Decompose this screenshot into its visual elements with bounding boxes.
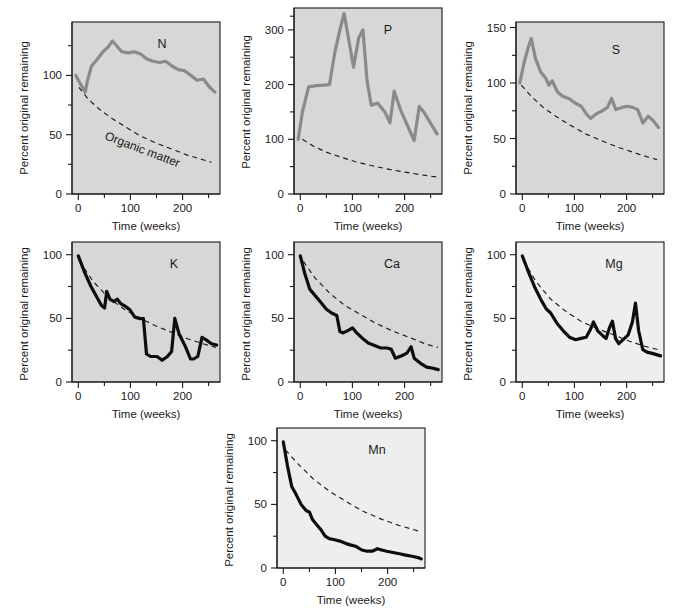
panel-label-n: N xyxy=(157,37,166,51)
x-ticks-ca xyxy=(300,382,430,388)
y-tick-label: 50 xyxy=(254,498,267,510)
x-axis-title: Time (weeks) xyxy=(112,408,181,420)
panel-label-s: S xyxy=(612,43,620,57)
y-axis-title: Percent original remaining xyxy=(18,41,30,175)
y-ticks-mg xyxy=(510,255,516,382)
chart-svg-mn: 0 50 100 0 100 200 Time (weeks) Percent … xyxy=(219,412,431,610)
x-axis-title: Time (weeks) xyxy=(556,408,625,420)
chart-panel-mn: 0 50 100 0 100 200 Time (weeks) Percent … xyxy=(219,412,431,610)
x-tick-label: 100 xyxy=(326,576,345,588)
x-tick-label: 200 xyxy=(395,202,414,214)
y-ticks-k xyxy=(66,255,72,382)
panel-label-p: P xyxy=(384,23,392,37)
y-axis-title: Percent original remaining xyxy=(462,41,474,175)
x-tick-label: 200 xyxy=(617,390,636,402)
x-ticks-mn xyxy=(283,568,413,574)
plot-area-k xyxy=(72,242,220,382)
panel-label-mn: Mn xyxy=(368,443,385,457)
y-axis-title: Percent original remaining xyxy=(240,35,252,169)
y-tick-label: 0 xyxy=(500,188,506,200)
chart-panel-k: 0 50 100 0 100 200 Time (weeks) Percent … xyxy=(14,226,226,426)
y-axis-title: Percent original remaining xyxy=(223,433,235,567)
y-axis-title: Percent original remaining xyxy=(240,247,252,381)
y-axis-title: Percent original remaining xyxy=(462,247,474,381)
y-tick-label: 0 xyxy=(261,562,267,574)
chart-svg-mg: 0 50 100 0 100 200 Time (weeks) Percent … xyxy=(458,226,670,426)
y-tick-label: 150 xyxy=(487,22,506,34)
x-tick-label: 0 xyxy=(297,390,303,402)
panel-label-mg: Mg xyxy=(605,257,622,271)
x-tick-label: 200 xyxy=(395,390,414,402)
chart-panel-p: 0 100 200 300 0 100 200 Time (weeks) Per… xyxy=(236,0,448,238)
x-tick-label: 200 xyxy=(378,576,397,588)
x-tick-label: 0 xyxy=(519,390,525,402)
x-tick-label: 100 xyxy=(565,390,584,402)
y-tick-label: 100 xyxy=(43,249,62,261)
y-tick-label: 50 xyxy=(49,129,62,141)
x-tick-label: 0 xyxy=(297,202,303,214)
y-tick-label: 300 xyxy=(265,24,284,36)
panel-label-ca: Ca xyxy=(384,257,400,271)
y-tick-label: 100 xyxy=(265,249,284,261)
x-ticks-s xyxy=(522,194,652,200)
y-ticks-n xyxy=(66,46,72,194)
x-tick-label: 100 xyxy=(343,202,362,214)
plot-area-p xyxy=(294,8,442,194)
x-tick-label: 200 xyxy=(617,202,636,214)
y-ticks-s xyxy=(510,28,516,195)
chart-svg-ca: 0 50 100 0 100 200 Time (weeks) Percent … xyxy=(236,226,448,426)
chart-svg-s: 0 50 100 150 0 100 200 Time (weeks) Perc… xyxy=(458,6,670,238)
chart-svg-k: 0 50 100 0 100 200 Time (weeks) Percent … xyxy=(14,226,226,426)
chart-panel-s: 0 50 100 150 0 100 200 Time (weeks) Perc… xyxy=(458,6,670,238)
x-tick-label: 200 xyxy=(173,202,192,214)
x-tick-label: 0 xyxy=(75,202,81,214)
x-tick-label: 0 xyxy=(280,576,286,588)
x-tick-label: 200 xyxy=(173,390,192,402)
x-tick-label: 100 xyxy=(121,390,140,402)
plot-area-mg xyxy=(516,242,664,382)
x-ticks-n xyxy=(78,194,208,200)
y-tick-label: 0 xyxy=(56,188,62,200)
x-tick-label: 100 xyxy=(343,390,362,402)
plot-area-s xyxy=(516,22,664,194)
x-tick-label: 0 xyxy=(75,390,81,402)
y-tick-label: 200 xyxy=(265,79,284,91)
y-tick-label: 100 xyxy=(487,249,506,261)
x-ticks-k xyxy=(78,382,208,388)
chart-panel-ca: 0 50 100 0 100 200 Time (weeks) Percent … xyxy=(236,226,448,426)
chart-panel-mg: 0 50 100 0 100 200 Time (weeks) Percent … xyxy=(458,226,670,426)
y-tick-label: 100 xyxy=(487,77,506,89)
x-tick-label: 100 xyxy=(565,202,584,214)
y-ticks-p xyxy=(288,16,294,194)
x-ticks-mg xyxy=(522,382,652,388)
y-ticks-mn xyxy=(271,441,277,568)
x-tick-label: 100 xyxy=(121,202,140,214)
y-tick-label: 50 xyxy=(49,312,62,324)
chart-svg-n: 0 50 100 0 100 200 Time (weeks) Percent … xyxy=(14,6,226,238)
y-axis-title: Percent original remaining xyxy=(18,247,30,381)
chart-panel-n: 0 50 100 0 100 200 Time (weeks) Percent … xyxy=(14,6,226,238)
x-ticks-p xyxy=(300,194,430,200)
y-tick-label: 0 xyxy=(56,376,62,388)
y-tick-label: 0 xyxy=(278,376,284,388)
plot-area-n xyxy=(72,22,220,194)
x-tick-label: 0 xyxy=(519,202,525,214)
y-tick-label: 0 xyxy=(278,188,284,200)
y-tick-label: 50 xyxy=(271,312,284,324)
panel-label-k: K xyxy=(170,257,179,271)
chart-svg-p: 0 100 200 300 0 100 200 Time (weeks) Per… xyxy=(236,0,448,238)
y-tick-label: 100 xyxy=(265,133,284,145)
y-tick-label: 50 xyxy=(493,312,506,324)
y-ticks-ca xyxy=(288,255,294,382)
x-axis-title: Time (weeks) xyxy=(317,594,386,606)
y-tick-label: 100 xyxy=(248,435,267,447)
y-tick-label: 100 xyxy=(43,69,62,81)
y-tick-label: 0 xyxy=(500,376,506,388)
y-tick-label: 50 xyxy=(493,133,506,145)
